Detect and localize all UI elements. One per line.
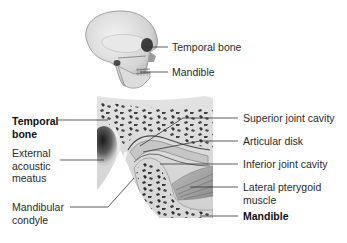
label-condyle-line1: Mandibular [12, 201, 64, 214]
label-eam-line3: meatus [12, 172, 51, 185]
label-skull-temporal-bone: Temporal bone [172, 41, 241, 54]
label-lateral-pterygoid-muscle: Lateral pterygoid muscle [243, 181, 321, 206]
label-eam-line2: acoustic [12, 160, 51, 173]
label-pterygoid-line1: Lateral pterygoid [243, 181, 321, 194]
label-articular-disk: Articular disk [243, 135, 303, 148]
label-skull-mandible: Mandible [172, 66, 215, 79]
label-mandibular-condyle: Mandibular condyle [12, 201, 64, 226]
skull-illustration [86, 11, 158, 88]
label-temporal-bone-line1: Temporal [12, 115, 58, 128]
label-eam-line1: External [12, 147, 51, 160]
label-mandible: Mandible [243, 210, 289, 223]
label-temporal-bone-line2: bone [12, 128, 58, 141]
label-temporal-bone: Temporal bone [12, 115, 58, 140]
label-pterygoid-line2: muscle [243, 194, 321, 207]
label-external-acoustic-meatus: External acoustic meatus [12, 147, 51, 185]
label-condyle-line2: condyle [12, 214, 64, 227]
label-inferior-joint-cavity: Inferior joint cavity [243, 158, 328, 171]
tmj-diagram: Temporal bone Mandible Temporal bone Ext… [0, 0, 347, 243]
label-superior-joint-cavity: Superior joint cavity [243, 112, 335, 125]
joint-cross-section [91, 94, 215, 220]
